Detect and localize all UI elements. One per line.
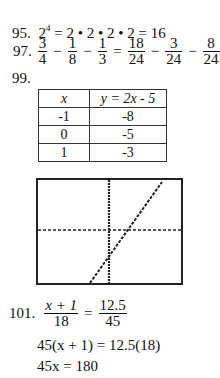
fraction: 1824 <box>128 36 145 67</box>
fraction: 18 <box>68 36 78 67</box>
equals: = <box>84 305 92 322</box>
table-header-y: y = 2x - 5 <box>90 90 167 108</box>
fraction-rhs: 12.545 <box>99 298 127 329</box>
problem-number: 97. <box>13 43 32 60</box>
fraction: 824 <box>203 36 220 67</box>
fraction-lhs: x + 118 <box>44 298 78 329</box>
problem-101: 101. x + 118 = 12.545 <box>8 298 128 329</box>
problem-number: 101. <box>9 305 35 322</box>
operator: − <box>53 43 61 60</box>
table-header-x: x <box>39 90 90 108</box>
operator: − <box>151 43 159 60</box>
operator: = <box>113 43 121 60</box>
fraction: 13 <box>98 36 108 67</box>
step-2: 45x = 180 <box>37 358 98 374</box>
calculator-graph <box>36 178 183 285</box>
operator: − <box>83 43 91 60</box>
fraction: 34 <box>38 36 48 67</box>
problem-97: 97. 34 − 18 − 13 = 1824 − 324 − 824 = 72… <box>12 36 220 67</box>
step-1: 45(x + 1) = 12.5(18) <box>37 337 160 353</box>
table-header-row: x y = 2x - 5 <box>39 90 167 108</box>
table-row: -1 -8 <box>39 108 167 126</box>
table-row: 0 -5 <box>39 126 167 144</box>
line-graph-icon <box>38 180 181 283</box>
values-table: x y = 2x - 5 -1 -8 0 -5 1 -3 <box>38 89 167 162</box>
operator: − <box>188 43 196 60</box>
problem-number-99: 99. <box>12 70 31 86</box>
fraction: 324 <box>165 36 182 67</box>
table-row: 1 -3 <box>39 144 167 162</box>
